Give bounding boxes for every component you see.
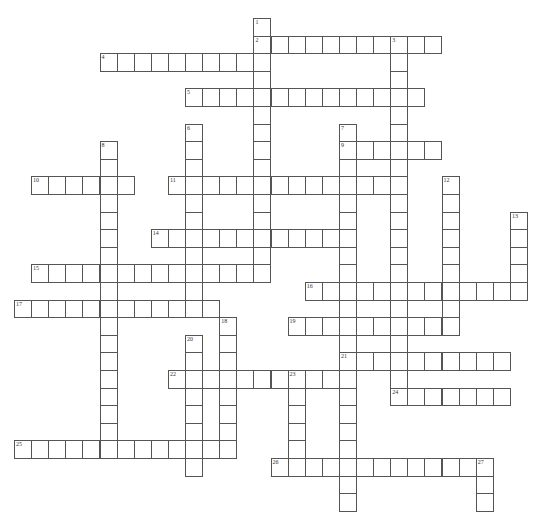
crossword-cell[interactable]	[407, 458, 425, 477]
crossword-cell[interactable]: 4	[100, 53, 118, 72]
crossword-cell[interactable]	[253, 106, 271, 125]
crossword-cell[interactable]	[424, 458, 442, 477]
crossword-cell[interactable]: 1	[253, 18, 271, 37]
crossword-cell[interactable]	[185, 194, 203, 213]
crossword-cell[interactable]	[219, 388, 237, 407]
crossword-cell[interactable]	[390, 194, 408, 213]
crossword-cell[interactable]	[236, 88, 254, 107]
crossword-cell[interactable]	[168, 53, 186, 72]
crossword-cell[interactable]	[407, 88, 425, 107]
crossword-cell[interactable]	[356, 176, 374, 195]
crossword-cell[interactable]	[236, 53, 254, 72]
crossword-cell[interactable]	[442, 458, 460, 477]
crossword-cell[interactable]	[390, 159, 408, 178]
crossword-cell[interactable]	[100, 159, 118, 178]
crossword-cell[interactable]	[185, 53, 203, 72]
crossword-cell[interactable]	[322, 229, 340, 248]
crossword-cell[interactable]	[356, 458, 374, 477]
crossword-cell[interactable]	[100, 440, 118, 459]
crossword-cell[interactable]	[236, 176, 254, 195]
crossword-cell[interactable]: 27	[476, 458, 494, 477]
crossword-cell[interactable]	[100, 264, 118, 283]
crossword-cell[interactable]	[185, 212, 203, 231]
crossword-cell[interactable]: 3	[390, 36, 408, 55]
crossword-cell[interactable]	[339, 405, 357, 424]
crossword-cell[interactable]	[390, 264, 408, 283]
crossword-cell[interactable]: 12	[442, 176, 460, 195]
crossword-cell[interactable]	[339, 300, 357, 319]
crossword-cell[interactable]	[100, 335, 118, 354]
crossword-cell[interactable]	[373, 176, 391, 195]
crossword-cell[interactable]	[100, 405, 118, 424]
crossword-cell[interactable]	[322, 317, 340, 336]
crossword-cell[interactable]	[100, 300, 118, 319]
crossword-cell[interactable]: 20	[185, 335, 203, 354]
crossword-cell[interactable]: 10	[31, 176, 49, 195]
crossword-cell[interactable]	[322, 370, 340, 389]
crossword-cell[interactable]	[202, 53, 220, 72]
crossword-cell[interactable]	[100, 370, 118, 389]
crossword-cell[interactable]	[442, 229, 460, 248]
crossword-cell[interactable]	[442, 300, 460, 319]
crossword-cell[interactable]: 19	[288, 317, 306, 336]
crossword-cell[interactable]	[390, 212, 408, 231]
crossword-cell[interactable]	[65, 440, 83, 459]
crossword-cell[interactable]	[100, 229, 118, 248]
crossword-cell[interactable]	[288, 405, 306, 424]
crossword-cell[interactable]: 17	[14, 300, 32, 319]
crossword-cell[interactable]	[305, 229, 323, 248]
crossword-cell[interactable]	[117, 300, 135, 319]
crossword-cell[interactable]	[339, 476, 357, 495]
crossword-cell[interactable]	[510, 247, 528, 266]
crossword-cell[interactable]	[407, 352, 425, 371]
crossword-cell[interactable]: 21	[339, 352, 357, 371]
crossword-cell[interactable]	[219, 53, 237, 72]
crossword-cell[interactable]	[373, 458, 391, 477]
crossword-cell[interactable]	[185, 176, 203, 195]
crossword-cell[interactable]	[459, 458, 477, 477]
crossword-cell[interactable]: 16	[305, 282, 323, 301]
crossword-cell[interactable]: 6	[185, 124, 203, 143]
crossword-cell[interactable]	[288, 36, 306, 55]
crossword-cell[interactable]	[424, 388, 442, 407]
crossword-cell[interactable]	[356, 141, 374, 160]
crossword-cell[interactable]	[185, 300, 203, 319]
crossword-cell[interactable]	[48, 264, 66, 283]
crossword-cell[interactable]	[82, 176, 100, 195]
crossword-cell[interactable]	[339, 458, 357, 477]
crossword-cell[interactable]	[339, 423, 357, 442]
crossword-cell[interactable]	[271, 370, 289, 389]
crossword-cell[interactable]	[322, 282, 340, 301]
crossword-cell[interactable]	[356, 282, 374, 301]
crossword-cell[interactable]	[185, 264, 203, 283]
crossword-cell[interactable]	[271, 36, 289, 55]
crossword-cell[interactable]: 23	[288, 370, 306, 389]
crossword-cell[interactable]	[390, 88, 408, 107]
crossword-cell[interactable]	[288, 458, 306, 477]
crossword-cell[interactable]	[407, 36, 425, 55]
crossword-cell[interactable]	[271, 229, 289, 248]
crossword-cell[interactable]	[373, 141, 391, 160]
crossword-cell[interactable]	[322, 88, 340, 107]
crossword-cell[interactable]	[253, 247, 271, 266]
crossword-cell[interactable]	[407, 282, 425, 301]
crossword-cell[interactable]	[339, 264, 357, 283]
crossword-cell[interactable]	[219, 352, 237, 371]
crossword-cell[interactable]	[117, 176, 135, 195]
crossword-cell[interactable]	[407, 388, 425, 407]
crossword-cell[interactable]	[100, 388, 118, 407]
crossword-cell[interactable]	[202, 88, 220, 107]
crossword-cell[interactable]: 14	[151, 229, 169, 248]
crossword-cell[interactable]	[390, 176, 408, 195]
crossword-cell[interactable]	[305, 176, 323, 195]
crossword-cell[interactable]	[476, 493, 494, 512]
crossword-cell[interactable]	[390, 247, 408, 266]
crossword-cell[interactable]	[390, 458, 408, 477]
crossword-cell[interactable]: 22	[168, 370, 186, 389]
crossword-cell[interactable]	[168, 264, 186, 283]
crossword-cell[interactable]	[134, 300, 152, 319]
crossword-cell[interactable]	[82, 300, 100, 319]
crossword-cell[interactable]	[168, 300, 186, 319]
crossword-cell[interactable]	[219, 440, 237, 459]
crossword-cell[interactable]	[339, 440, 357, 459]
